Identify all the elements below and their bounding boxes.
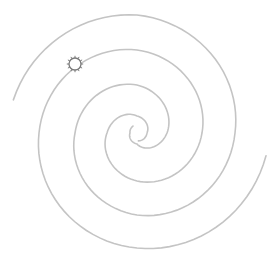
spiral-diagram <box>0 0 279 268</box>
sun-icon <box>67 56 83 72</box>
sun-ring <box>69 58 81 70</box>
